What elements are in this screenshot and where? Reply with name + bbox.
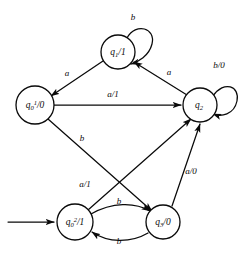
state-machine-svg: a a b b/0 a/1 b a/1 (0, 0, 243, 253)
edge-label-q3-to-q0-two: b (117, 236, 122, 246)
edge-q2-to-q1: a (134, 62, 187, 95)
edge-q1-to-q0-one: a (51, 61, 103, 96)
state-node-q0-two[interactable]: q02/1 (57, 204, 93, 240)
state-label-q0-one-out: /0 (36, 100, 45, 110)
state-label-q1: q1/1 (110, 47, 125, 58)
edge-q0-one-to-q3: b (48, 119, 152, 211)
state-label-q3-out: /0 (162, 217, 171, 227)
state-node-q3[interactable]: q3/0 (146, 205, 180, 239)
edge-label-q0-one-to-q2: a/1 (107, 89, 119, 99)
edge-label-q0-two-to-q2: a/1 (79, 179, 91, 189)
state-label-q3: q3/0 (155, 217, 171, 228)
edge-label-q1-to-q0-one: a (65, 68, 70, 78)
edge-label-q1-self-loop: b (131, 12, 136, 22)
edge-label-q0-one-to-q3: b (80, 133, 85, 143)
state-diagram-canvas: a a b b/0 a/1 b a/1 (0, 0, 243, 253)
state-node-q0-one[interactable]: q01/0 (16, 86, 54, 124)
edge-label-q3-to-q2: a/0 (185, 166, 197, 176)
state-node-q1[interactable]: q1/1 (101, 35, 135, 69)
edge-q0-one-to-q2: a/1 (54, 89, 181, 105)
edge-label-q2-to-q1: a (167, 67, 172, 77)
edge-q3-to-q2: a/0 (172, 124, 200, 206)
edge-label-q2-self-loop: b/0 (213, 60, 225, 70)
state-label-q1-out: /1 (117, 47, 125, 57)
state-label-q0-two-out: /1 (76, 217, 84, 227)
edge-label-q0-two-to-q3: b (117, 196, 122, 206)
state-node-q2[interactable]: q2 (183, 88, 217, 122)
edge-q3-to-q0-two: b (92, 232, 148, 246)
